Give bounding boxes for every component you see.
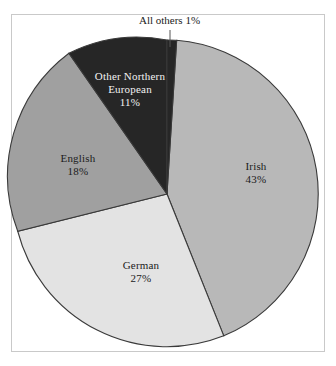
pie-label-other-northern-european-line2: European	[75, 83, 185, 96]
pie-chart-figure: All others 1% Irish 43% German 27% Engli…	[0, 0, 336, 366]
pie-label-german-name: German	[95, 259, 187, 272]
pie-label-german: German 27%	[95, 259, 187, 285]
pie-label-other-northern-european-line1: Other Northern	[75, 70, 185, 83]
pie-label-irish-percent: 43%	[218, 173, 294, 186]
pie-label-all-others: All others 1%	[107, 14, 232, 26]
pie-label-english: English 18%	[36, 152, 120, 178]
pie-label-english-name: English	[36, 152, 120, 165]
pie-label-irish: Irish 43%	[218, 160, 294, 186]
pie-label-irish-name: Irish	[218, 160, 294, 173]
pie-label-german-percent: 27%	[95, 272, 187, 285]
pie-label-other-northern-european-percent: 11%	[75, 96, 185, 109]
pie-label-english-percent: 18%	[36, 165, 120, 178]
pie-label-other-northern-european: Other Northern European 11%	[75, 70, 185, 109]
